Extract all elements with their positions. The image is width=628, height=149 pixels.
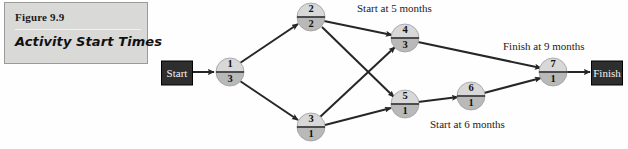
terminal-finish: Finish bbox=[592, 61, 623, 85]
node-4-top-value: 4 bbox=[402, 24, 408, 35]
node-6-bottom-value: 1 bbox=[468, 97, 473, 108]
node-2-top-value: 2 bbox=[308, 3, 313, 14]
edge-n1-to-n2 bbox=[240, 24, 298, 63]
node-2-bottom-value: 2 bbox=[308, 18, 313, 29]
annotation-start-at-5-months: Start at 5 months bbox=[357, 2, 432, 14]
node-4: 4 3 bbox=[391, 24, 419, 52]
node-1-top-value: 1 bbox=[227, 58, 232, 69]
node-6: 6 1 bbox=[457, 82, 485, 110]
node-7: 7 1 bbox=[539, 58, 567, 86]
node-1: 1 3 bbox=[216, 58, 244, 86]
node-7-bottom-value: 1 bbox=[550, 73, 555, 84]
node-5: 5 1 bbox=[391, 90, 419, 118]
edge-n3-to-n5 bbox=[325, 108, 391, 125]
annotation-start-at-6-months: Start at 6 months bbox=[430, 118, 505, 130]
node-4-bottom-value: 3 bbox=[402, 39, 407, 50]
terminal-start: Start bbox=[162, 61, 193, 85]
figure-screenshot: Figure 9.9 Activity Start Times S bbox=[0, 0, 628, 149]
node-3-top-value: 3 bbox=[308, 113, 313, 124]
nodes-layer: 1 3 2 2 3 1 4 3 bbox=[216, 3, 567, 141]
node-5-bottom-value: 1 bbox=[402, 105, 407, 116]
node-2: 2 2 bbox=[297, 3, 325, 31]
edge-n5-to-n6 bbox=[418, 97, 458, 102]
node-7-top-value: 7 bbox=[550, 58, 555, 69]
node-3-bottom-value: 1 bbox=[308, 128, 313, 139]
annotation-finish-at-9-months: Finish at 9 months bbox=[503, 40, 585, 52]
node-3: 3 1 bbox=[297, 113, 325, 141]
network-diagram: Start Finish 1 3 2 2 bbox=[0, 0, 628, 149]
edge-n2-to-n5 bbox=[322, 27, 394, 97]
node-1-bottom-value: 3 bbox=[227, 73, 232, 84]
edge-n6-to-n7 bbox=[484, 78, 541, 93]
node-6-top-value: 6 bbox=[468, 82, 473, 93]
finish-box-label: Finish bbox=[593, 67, 621, 79]
start-box-label: Start bbox=[167, 67, 188, 79]
node-5-top-value: 5 bbox=[402, 90, 407, 101]
edge-n2-to-n4 bbox=[324, 21, 392, 35]
edge-n1-to-n3 bbox=[240, 81, 298, 120]
edge-n3-to-n4 bbox=[320, 47, 395, 117]
